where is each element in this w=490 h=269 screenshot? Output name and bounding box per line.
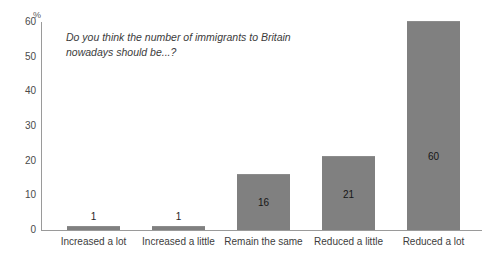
bar-value-increased-a-little: 1 (136, 211, 221, 222)
chart-question-annotation: Do you think the number of immigrants to… (66, 30, 321, 60)
y-tick-40: 40 (6, 86, 36, 96)
bar-increased-a-lot[interactable] (67, 226, 120, 231)
y-tick-0: 0 (6, 225, 36, 235)
category-label-increased-a-lot: Increased a lot (46, 236, 141, 248)
y-tick-10: 10 (6, 190, 36, 200)
question-line-1: Do you think the number of immigrants to… (66, 30, 321, 45)
bar-value-increased-a-lot: 1 (51, 211, 136, 222)
bar-slot-reduced-a-lot: 60 (391, 22, 476, 230)
category-label-reduced-a-little: Reduced a little (301, 236, 396, 248)
question-line-2: nowadays should be...? (66, 45, 321, 60)
bar-chart: % 60 50 40 30 20 10 0 1 1 16 (0, 0, 490, 269)
y-tick-30: 30 (6, 121, 36, 131)
bar-value-reduced-a-little: 21 (306, 189, 391, 200)
bar-value-remain-the-same: 16 (221, 197, 306, 208)
bar-reduced-a-lot[interactable] (407, 21, 460, 230)
category-label-reduced-a-lot: Reduced a lot (386, 236, 481, 248)
bar-increased-a-little[interactable] (152, 226, 205, 231)
category-label-increased-a-little: Increased a little (131, 236, 226, 248)
x-axis-category-labels: Increased a lot Increased a little Remai… (41, 236, 482, 254)
y-axis-tick-labels: 60 50 40 30 20 10 0 (3, 22, 36, 231)
y-tick-20: 20 (6, 156, 36, 166)
y-tick-50: 50 (6, 52, 36, 62)
y-tick-60: 60 (6, 17, 36, 27)
bar-value-reduced-a-lot: 60 (391, 151, 476, 162)
category-label-remain-the-same: Remain the same (216, 236, 311, 248)
